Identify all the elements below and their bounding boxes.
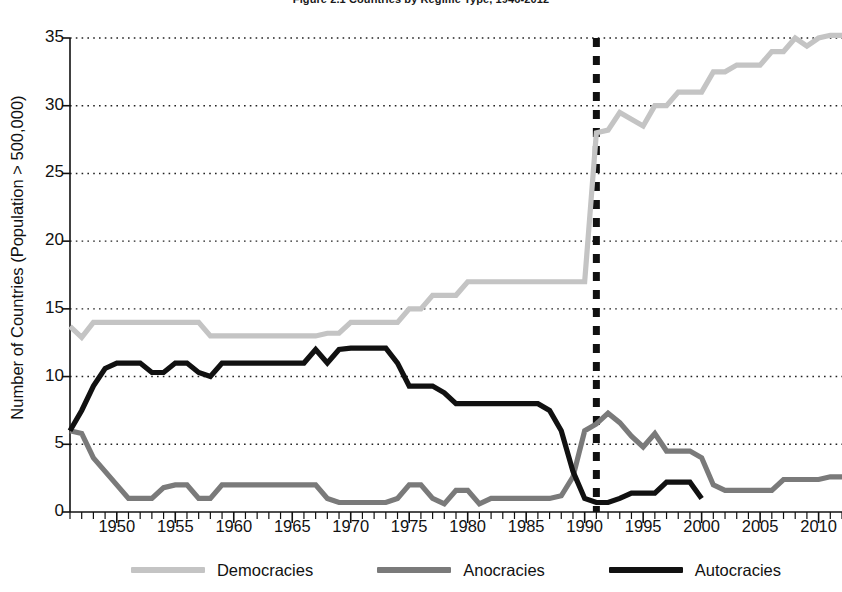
x-tick-label-2005: 2005 [742, 517, 779, 536]
y-tick-label-0: 0 [30, 501, 64, 521]
y-tick-label-30: 30 [30, 95, 64, 115]
x-tick-label-1955: 1955 [157, 517, 194, 536]
legend-swatch-icon [131, 567, 205, 573]
x-tick-label-1990: 1990 [566, 517, 603, 536]
x-tick-label-1960: 1960 [215, 517, 252, 536]
legend-item-democracies[interactable]: Democracies [131, 561, 313, 580]
legend-swatch-icon [377, 567, 451, 573]
y-tick-label-10: 10 [30, 366, 64, 386]
legend-label: Autocracies [695, 561, 781, 580]
plot-area [70, 38, 842, 512]
series-line-democracies [70, 35, 842, 337]
y-tick-label-25: 25 [30, 162, 64, 182]
legend-swatch-icon [609, 567, 683, 573]
y-tick-label-5: 5 [30, 433, 64, 453]
x-tick-label-1970: 1970 [332, 517, 369, 536]
legend-item-autocracies[interactable]: Autocracies [609, 561, 781, 580]
x-tick-label-1980: 1980 [449, 517, 486, 536]
x-tick-label-2010: 2010 [800, 517, 837, 536]
chart-title: Figure 2.1 Countries by Regime Type, 194… [0, 0, 842, 7]
plot-svg [70, 38, 842, 512]
x-tick-label-1950: 1950 [98, 517, 135, 536]
x-tick-label-1985: 1985 [508, 517, 545, 536]
y-tick-label-15: 15 [30, 298, 64, 318]
x-tick-label-1975: 1975 [391, 517, 428, 536]
x-tick-label-2000: 2000 [683, 517, 720, 536]
y-tick-label-20: 20 [30, 230, 64, 250]
x-tick-labels: 1950195519601965197019751980198519901995… [70, 517, 842, 539]
x-tick-label-1995: 1995 [625, 517, 662, 536]
y-tick-labels: 05101520253035 [24, 38, 64, 512]
chart-figure: Figure 2.1 Countries by Regime Type, 194… [0, 0, 842, 592]
legend-label: Democracies [217, 561, 313, 580]
series-line-autocracies [70, 348, 702, 502]
y-tick-label-35: 35 [30, 27, 64, 47]
x-tick-label-1965: 1965 [274, 517, 311, 536]
legend-item-anocracies[interactable]: Anocracies [377, 561, 545, 580]
axis-lines [70, 38, 842, 512]
gridlines [70, 38, 842, 444]
chart-legend: DemocraciesAnocraciesAutocracies [70, 556, 842, 584]
legend-label: Anocracies [463, 561, 545, 580]
series-line-anocracies [70, 413, 842, 504]
